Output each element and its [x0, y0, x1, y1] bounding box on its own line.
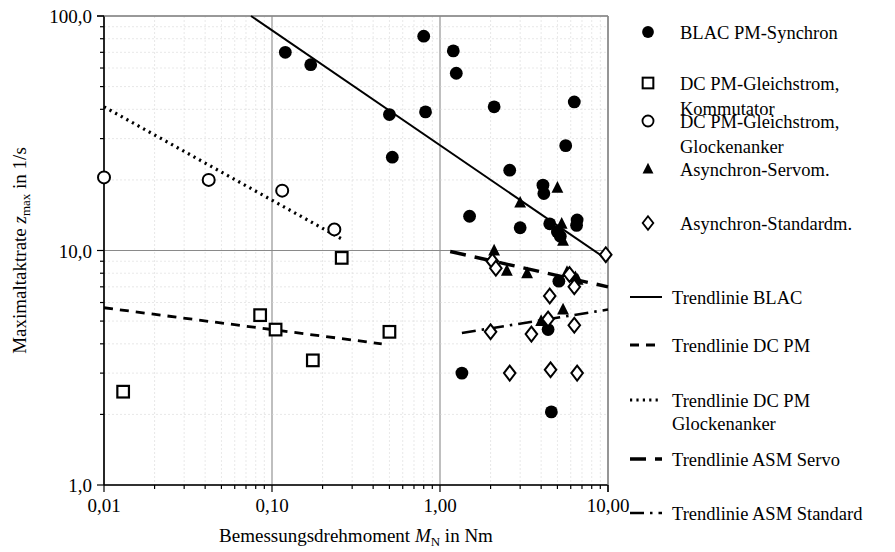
- legend-label: DC PM-Gleichstrom,: [680, 112, 839, 132]
- data-point: [307, 355, 319, 367]
- legend-filled-circle-icon: [642, 26, 654, 38]
- data-point: [571, 214, 584, 227]
- x-tick-label: 0,01: [87, 495, 120, 516]
- data-point: [328, 223, 340, 235]
- chart-figure: 0,010,101,0010,00100,010,01,0Bemessungsd…: [0, 0, 895, 552]
- legend-label: Trendlinie DC PM: [672, 336, 810, 356]
- data-point: [568, 96, 581, 109]
- y-axis-title-symbol-sub: max: [18, 193, 33, 216]
- y-tick-label: 100,0: [49, 6, 92, 27]
- legend-label: Trendlinie BLAC: [672, 288, 802, 308]
- y-tick-label: 10,0: [59, 241, 92, 262]
- data-point: [336, 252, 348, 264]
- data-point: [537, 187, 550, 200]
- data-point: [417, 30, 430, 43]
- data-point: [419, 105, 432, 118]
- y-axis-title-unit: in 1/s: [9, 147, 30, 193]
- data-point: [203, 174, 215, 186]
- x-axis-title-symbol: M: [414, 525, 432, 546]
- x-axis-title-unit: in Nm: [440, 525, 493, 546]
- x-tick-label: 1,00: [423, 495, 456, 516]
- y-tick-label: 1,0: [68, 475, 92, 496]
- scatter-plot-canvas: 0,010,101,0010,00100,010,01,0Bemessungsd…: [0, 0, 895, 552]
- data-point: [270, 324, 282, 336]
- y-axis-title: Maximaltaktrate zmax in 1/s: [9, 147, 33, 354]
- legend-label: Asynchron-Standardm.: [680, 214, 852, 234]
- legend-label-line2: Glockenanker: [672, 414, 776, 434]
- data-point: [386, 151, 399, 164]
- x-tick-label: 10,00: [587, 495, 630, 516]
- legend-label-line2: Glockenanker: [680, 137, 784, 157]
- data-point: [276, 185, 288, 197]
- x-axis-title: Bemessungsdrehmoment MN in Nm: [219, 525, 493, 549]
- data-point: [98, 171, 110, 183]
- data-point: [383, 108, 396, 121]
- data-point: [117, 386, 129, 398]
- legend-label: BLAC PM-Synchron: [680, 23, 838, 43]
- data-point: [384, 326, 396, 338]
- data-point: [545, 405, 558, 418]
- data-point: [455, 367, 468, 380]
- data-point: [463, 210, 476, 223]
- legend-open-circle-icon: [642, 115, 653, 126]
- legend-label: DC PM-Gleichstrom,: [680, 74, 839, 94]
- legend-label: Trendlinie ASM Servo: [672, 450, 840, 470]
- data-point: [450, 67, 463, 80]
- legend-label: Trendlinie ASM Standard: [672, 504, 863, 524]
- data-point: [503, 164, 516, 177]
- legend-open-square-icon: [643, 78, 654, 89]
- data-point: [304, 58, 317, 71]
- data-point: [514, 221, 527, 234]
- data-point: [279, 46, 292, 59]
- data-point: [254, 309, 266, 321]
- data-point: [559, 139, 572, 152]
- data-point: [447, 44, 460, 57]
- legend-label: Asynchron-Servom.: [680, 160, 830, 180]
- y-axis-title-main: Maximaltaktrate: [9, 223, 30, 353]
- legend-label: Trendlinie DC PM: [672, 391, 810, 411]
- x-tick-label: 0,10: [255, 495, 288, 516]
- x-axis-title-main: Bemessungsdrehmoment: [219, 525, 415, 546]
- data-point: [488, 100, 501, 113]
